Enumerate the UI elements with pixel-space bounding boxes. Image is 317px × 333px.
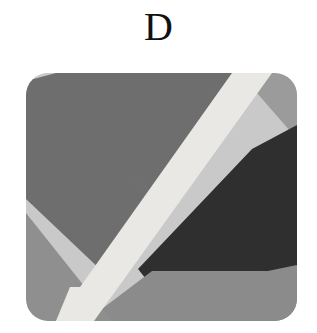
artwork-shape-group xyxy=(26,73,297,321)
figure-root: D xyxy=(0,0,317,333)
abstract-image-panel xyxy=(26,73,297,321)
page-title: D xyxy=(0,4,317,50)
abstract-artwork xyxy=(26,73,297,321)
